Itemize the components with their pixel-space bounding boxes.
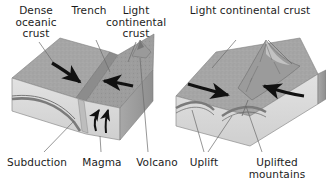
label-volcano: Volcano [130,157,184,169]
leader-magma [100,136,101,152]
label-uplifted-mountains: Uplifted mountains [228,157,326,180]
label-uplift: Uplift [182,157,226,169]
tectonics-figure: Dense oceanic crust Trench Light contine… [0,0,326,181]
label-light-continental-crust: Light continental crust [106,5,166,40]
right-block-group [176,38,326,152]
label-light-continental-crust-right: Light continental crust [185,5,315,17]
label-subduction: Subduction [2,157,72,169]
right-block-side-face [318,70,326,104]
left-block-group [12,34,154,152]
label-magma: Magma [76,157,128,169]
label-dense-oceanic-crust: Dense oceanic crust [6,5,66,40]
